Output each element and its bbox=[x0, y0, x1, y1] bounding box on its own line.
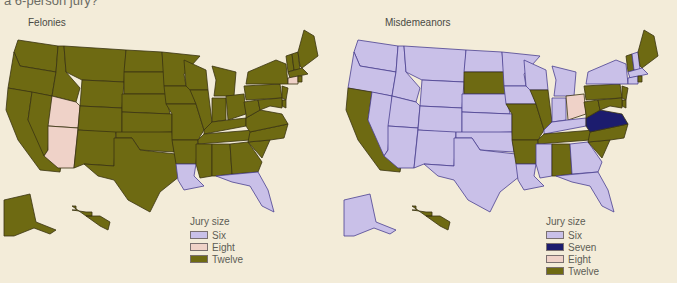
legend-item-six: Six bbox=[546, 229, 599, 241]
state-ms bbox=[196, 144, 212, 178]
felonies-panel: Felonies Jury size SixEightTwelve bbox=[0, 0, 338, 283]
legend-label: Seven bbox=[568, 242, 596, 253]
legend-rows: SixSevenEightTwelve bbox=[546, 229, 599, 277]
state-in bbox=[212, 98, 226, 122]
state-md bbox=[598, 98, 622, 110]
state-co bbox=[418, 106, 462, 134]
state-hi bbox=[72, 206, 110, 230]
state-ak bbox=[344, 194, 396, 236]
state-ks bbox=[462, 112, 512, 134]
state-ny bbox=[246, 60, 288, 84]
state-al bbox=[212, 144, 232, 176]
state-nd bbox=[464, 50, 504, 72]
state-ks bbox=[122, 112, 172, 134]
legend-label: Twelve bbox=[212, 254, 243, 265]
legend-swatch bbox=[190, 255, 208, 263]
state-mi bbox=[552, 66, 576, 96]
state-al bbox=[552, 144, 572, 176]
legend-item-twelve: Twelve bbox=[190, 253, 243, 265]
state-nd bbox=[124, 50, 164, 72]
legend-label: Six bbox=[212, 230, 226, 241]
state-wy bbox=[80, 80, 124, 108]
legend-label: Six bbox=[568, 230, 582, 241]
state-ne bbox=[122, 94, 170, 114]
state-oh bbox=[566, 94, 586, 120]
state-fl bbox=[216, 172, 274, 212]
state-ne bbox=[462, 94, 510, 114]
legend-swatch bbox=[546, 267, 564, 275]
legend-label: Twelve bbox=[568, 266, 599, 277]
state-mi bbox=[212, 66, 236, 96]
misdemeanors-panel: Misdemeanors bbox=[340, 0, 677, 283]
state-nm bbox=[74, 130, 116, 168]
state-nm bbox=[414, 130, 456, 168]
state-ri bbox=[638, 76, 642, 82]
state-pa bbox=[244, 84, 282, 100]
state-wi bbox=[184, 60, 208, 90]
state-nj bbox=[622, 86, 628, 100]
felonies-map bbox=[0, 0, 338, 283]
state-sd bbox=[464, 72, 506, 94]
misdemeanors-map bbox=[340, 0, 677, 283]
state-ar bbox=[172, 140, 198, 164]
legend-item-eight: Eight bbox=[546, 253, 599, 265]
legend-swatch bbox=[546, 243, 564, 251]
state-oh bbox=[226, 94, 246, 120]
legend-item-seven: Seven bbox=[546, 241, 599, 253]
legend-swatch bbox=[190, 231, 208, 239]
misdemeanors-legend: Jury size SixSevenEightTwelve bbox=[546, 216, 599, 277]
state-ak bbox=[4, 194, 56, 236]
state-de bbox=[282, 100, 286, 108]
legend-item-six: Six bbox=[190, 229, 243, 241]
legend-item-twelve: Twelve bbox=[546, 265, 599, 277]
state-sd bbox=[124, 72, 166, 94]
state-in bbox=[552, 98, 566, 122]
legend-label: Eight bbox=[212, 242, 235, 253]
state-ny bbox=[586, 60, 628, 84]
state-me bbox=[638, 30, 658, 68]
legend-title: Jury size bbox=[190, 216, 243, 227]
state-ri bbox=[298, 76, 302, 82]
state-ms bbox=[536, 144, 552, 178]
legend-swatch bbox=[546, 255, 564, 263]
state-wi bbox=[524, 60, 548, 90]
legend-label: Eight bbox=[568, 254, 591, 265]
state-de bbox=[622, 100, 626, 108]
state-hi bbox=[412, 206, 450, 230]
state-mt bbox=[64, 46, 126, 82]
legend-swatch bbox=[190, 243, 208, 251]
state-pa bbox=[584, 84, 622, 100]
felonies-legend: Jury size SixEightTwelve bbox=[190, 216, 243, 265]
state-md bbox=[258, 98, 282, 110]
legend-swatch bbox=[546, 231, 564, 239]
legend-title: Jury size bbox=[546, 216, 599, 227]
legend-item-eight: Eight bbox=[190, 241, 243, 253]
state-mt bbox=[404, 46, 466, 82]
state-me bbox=[298, 30, 318, 68]
legend-rows: SixEightTwelve bbox=[190, 229, 243, 265]
state-co bbox=[78, 106, 122, 134]
state-wy bbox=[420, 80, 464, 108]
state-fl bbox=[556, 172, 614, 212]
state-ar bbox=[512, 140, 538, 164]
state-nj bbox=[282, 86, 288, 100]
